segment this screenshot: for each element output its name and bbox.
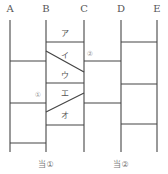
segment-labels: アイウエオ [61,29,69,120]
vertical-lines [10,20,157,152]
marker-label: ② [87,50,93,58]
column-label-e: E [153,3,160,14]
column-label-c: C [80,3,88,14]
segment-label: イ [61,51,69,60]
result-label: 当① [38,159,53,169]
column-label-d: D [117,3,125,14]
marker-label: ① [35,91,41,99]
segment-label: オ [61,111,69,120]
column-labels: ABCDE [5,3,160,14]
column-label-b: B [42,3,49,14]
column-label-a: A [5,3,14,14]
ladder-diagram: ABCDE アイウエオ ①② 当①当② [0,0,168,174]
result-labels: 当①当② [38,159,128,169]
segment-label: エ [61,89,69,98]
segment-label: ア [61,29,69,38]
result-label: 当② [113,159,128,169]
segment-label: ウ [61,71,69,80]
